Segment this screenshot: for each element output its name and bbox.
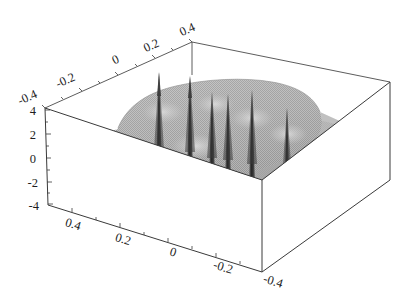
x-tick-label: 0 bbox=[110, 52, 121, 67]
surface-mesh bbox=[45, 72, 390, 236]
y-axis-labels: 0.4 0.2 0 -0.2 -0.4 bbox=[64, 215, 286, 291]
x-tick-label: -0.4 bbox=[15, 87, 39, 108]
x-tick-label: 0.4 bbox=[177, 20, 198, 39]
y-tick-label: 0 bbox=[168, 245, 178, 260]
plot-canvas: -0.4 -0.2 0 0.2 0.4 0.4 0.2 0 -0.2 -0.4 … bbox=[0, 0, 414, 300]
z-tick-label: 2 bbox=[30, 128, 36, 142]
z-axis-line bbox=[45, 108, 48, 205]
y-tick-label: 0.2 bbox=[114, 230, 133, 248]
y-tick-label: -0.2 bbox=[212, 258, 235, 277]
x-tick-label: 0.2 bbox=[141, 36, 161, 55]
x-tick-label: -0.2 bbox=[53, 70, 77, 91]
bottom-right-edge bbox=[262, 180, 390, 272]
z-axis-labels: 4 2 0 -2 -4 bbox=[28, 104, 40, 213]
y-tick-label: -0.4 bbox=[262, 272, 286, 291]
y-tick-label: 0.4 bbox=[64, 215, 84, 233]
surface-plot-figure: -0.4 -0.2 0 0.2 0.4 0.4 0.2 0 -0.2 -0.4 … bbox=[0, 0, 414, 300]
z-tick-label: 4 bbox=[30, 104, 37, 118]
y-axis-ticks bbox=[72, 208, 240, 264]
z-tick-label: 0 bbox=[30, 152, 36, 166]
z-tick-label: -4 bbox=[29, 199, 40, 213]
surface-lobe bbox=[141, 100, 185, 124]
z-tick-label: -2 bbox=[28, 176, 38, 190]
